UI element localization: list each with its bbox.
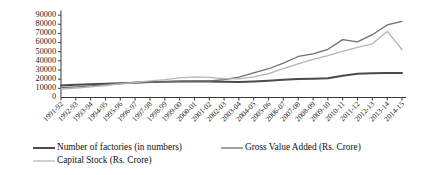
y-tick-label: 40000	[36, 56, 56, 65]
y-tick-label: 50000	[36, 47, 56, 56]
y-axis-ticks: 1000020000300004000050000600007000080000…	[36, 10, 61, 101]
y-tick-label: 30000	[36, 65, 56, 74]
data-series-group	[61, 21, 402, 89]
chart-legend: Number of factories (in numbers)Gross Va…	[33, 142, 361, 166]
y-tick-label: 80000	[36, 19, 56, 28]
series-line	[61, 31, 402, 89]
chart-canvas: 1000020000300004000050000600007000080000…	[0, 0, 429, 175]
y-tick-label: 60000	[36, 37, 56, 46]
line-chart: 1000020000300004000050000600007000080000…	[0, 0, 429, 175]
legend-label: Capital Stock (Rs. Crore)	[57, 155, 152, 166]
series-line	[61, 21, 402, 87]
y-tick-label: 20000	[36, 74, 56, 83]
x-axis-ticks: 1991-921992-931993-941994-951995-961996-…	[41, 98, 406, 124]
y-tick-label: 70000	[36, 28, 56, 37]
legend-label: Number of factories (in numbers)	[57, 142, 182, 153]
y-tick-label: 0	[52, 92, 56, 101]
y-tick-label: 10000	[36, 83, 56, 92]
y-tick-label: 90000	[36, 10, 56, 19]
legend-label: Gross Value Added (Rs. Crore)	[245, 142, 361, 153]
